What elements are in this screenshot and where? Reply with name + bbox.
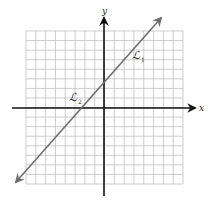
label-l2: ℒ 2 [69, 91, 82, 105]
coordinate-graph: x y ℒ 1 ℒ 2 [0, 0, 211, 201]
x-axis-label: x [199, 103, 204, 113]
svg-text:2: 2 [78, 98, 82, 105]
svg-text:ℒ: ℒ [69, 91, 78, 104]
label-l1: ℒ 1 [132, 49, 145, 63]
line-l [16, 18, 161, 182]
svg-text:ℒ: ℒ [132, 49, 141, 62]
y-axis-label: y [101, 6, 108, 16]
svg-text:1: 1 [141, 56, 145, 63]
